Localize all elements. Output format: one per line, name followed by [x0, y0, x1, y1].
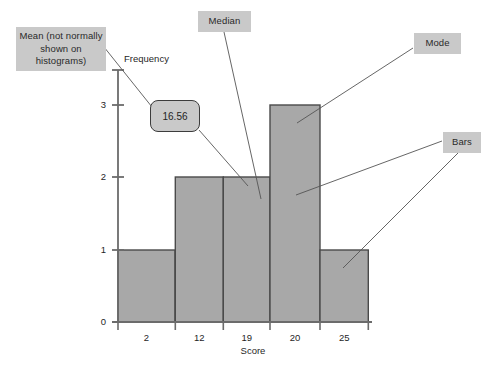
- bar-25: [320, 250, 368, 322]
- y-tick-label-2: 2: [90, 171, 106, 182]
- y-tick-label-3: 3: [90, 99, 106, 110]
- x-tick-label-12: 12: [184, 332, 214, 343]
- y-tick-label-1: 1: [90, 244, 106, 255]
- callout-mode: Mode: [414, 33, 461, 54]
- histogram-bars: [118, 105, 368, 322]
- y-axis-title: Frequency: [124, 53, 169, 64]
- callout-bars: Bars: [443, 132, 481, 153]
- leader-line-bars-lower: [343, 153, 458, 268]
- y-tick-label-0: 0: [90, 316, 106, 327]
- callout-mean: Mean (not normally shown on histograms): [16, 27, 106, 71]
- leader-line-median: [224, 32, 261, 199]
- x-axis-title: Score: [228, 345, 278, 356]
- histogram-figure: Mean (not normally shown on histograms) …: [0, 0, 500, 368]
- x-tick-label-25: 25: [329, 332, 359, 343]
- bar-19: [223, 177, 270, 322]
- x-tick-label-2: 2: [132, 332, 162, 343]
- bar-20: [270, 105, 320, 322]
- x-tick-label-20: 20: [280, 332, 310, 343]
- bar-12: [175, 177, 223, 322]
- x-tick-label-19: 19: [232, 332, 262, 343]
- callout-mean-value: 16.56: [150, 100, 200, 132]
- bar-2: [118, 250, 175, 322]
- callout-median: Median: [198, 11, 251, 32]
- leader-line-mode: [297, 48, 413, 123]
